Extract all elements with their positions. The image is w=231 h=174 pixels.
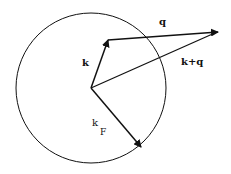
label-k: k [82,58,89,68]
label-kF: k [92,118,98,128]
vector-k [91,40,108,88]
label-kF-subscript: F [100,127,106,137]
fermi-sphere-diagram [0,0,231,174]
label-q: q [159,17,166,27]
vector-kF [91,88,141,147]
label-k-plus-q: k+q [181,57,203,67]
